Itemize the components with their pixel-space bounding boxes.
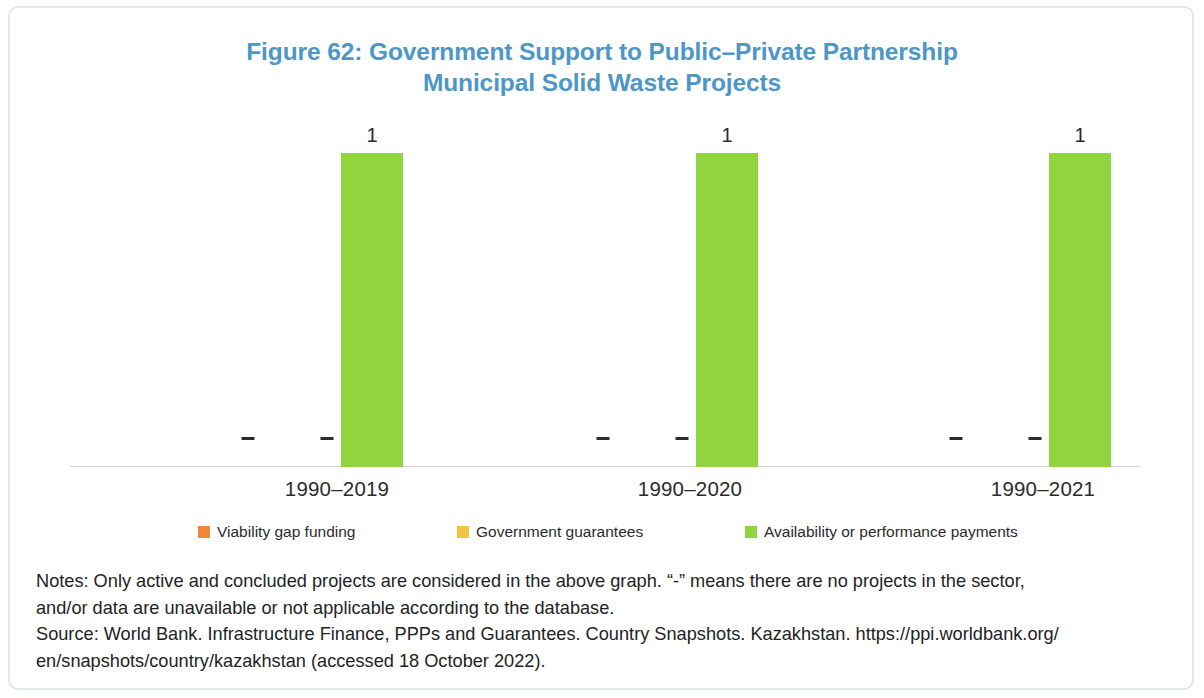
plot-area: 1 1 1: [70, 115, 1140, 467]
source-line-2: en/snapshots/country/kazakhstan (accesse…: [36, 648, 1176, 675]
notes-and-source: Notes: Only active and concluded project…: [36, 568, 1176, 674]
bar-slot-viability-gap-funding[interactable]: [217, 115, 279, 467]
bar-slot-availability-or-performance-payments[interactable]: 1: [341, 115, 403, 467]
bar-slot-viability-gap-funding[interactable]: [572, 115, 634, 467]
chart-legend: Viability gap funding Government guarant…: [70, 524, 1140, 550]
bar-slot-availability-or-performance-payments[interactable]: 1: [1049, 115, 1111, 467]
x-axis-labels: 1990–2019 1990–2020 1990–2021: [70, 477, 1140, 507]
legend-swatch-icon: [198, 526, 210, 538]
x-tick-label-1990-2021: 1990–2021: [923, 477, 1163, 501]
chart-title: Figure 62: Government Support to Public–…: [150, 36, 1054, 98]
bar-group-1990-2019: 1: [178, 115, 496, 467]
legend-label: Viability gap funding: [217, 524, 355, 540]
notes-line-1: Notes: Only active and concluded project…: [36, 568, 1176, 595]
legend-label: Availability or performance payments: [764, 524, 1018, 540]
chart-title-line-1: Figure 62: Government Support to Public–…: [150, 36, 1054, 67]
legend-item-viability-gap-funding[interactable]: Viability gap funding: [198, 524, 355, 540]
x-tick-label-1990-2020: 1990–2020: [570, 477, 810, 501]
bar-group-1990-2020: 1: [533, 115, 851, 467]
bar-availability-or-performance-payments[interactable]: [1049, 153, 1111, 467]
bar-group-1990-2021: 1: [886, 115, 1204, 467]
bar-value-label: 1: [696, 124, 758, 147]
figure-container: Figure 62: Government Support to Public–…: [0, 0, 1204, 698]
notes-line-2: and/or data are unavailable or not appli…: [36, 595, 1176, 622]
zero-dash-mark: [597, 437, 610, 441]
zero-dash-mark: [676, 437, 689, 441]
zero-dash-mark: [321, 437, 334, 441]
bar-availability-or-performance-payments[interactable]: [341, 153, 403, 467]
bar-value-label: 1: [1049, 124, 1111, 147]
legend-swatch-icon: [745, 526, 757, 538]
bar-slot-availability-or-performance-payments[interactable]: 1: [696, 115, 758, 467]
bar-value-label: 1: [341, 124, 403, 147]
legend-item-availability-or-performance-payments[interactable]: Availability or performance payments: [745, 524, 1018, 540]
legend-swatch-icon: [457, 526, 469, 538]
bar-slot-viability-gap-funding[interactable]: [925, 115, 987, 467]
legend-label: Government guarantees: [476, 524, 643, 540]
source-line-1: Source: World Bank. Infrastructure Finan…: [36, 621, 1176, 648]
x-tick-label-1990-2019: 1990–2019: [217, 477, 457, 501]
bar-availability-or-performance-payments[interactable]: [696, 153, 758, 467]
zero-dash-mark: [950, 437, 963, 441]
chart-title-line-2: Municipal Solid Waste Projects: [150, 67, 1054, 98]
zero-dash-mark: [1029, 437, 1042, 441]
zero-dash-mark: [242, 437, 255, 441]
legend-item-government-guarantees[interactable]: Government guarantees: [457, 524, 643, 540]
